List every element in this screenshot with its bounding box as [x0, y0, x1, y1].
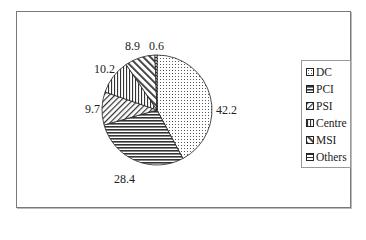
- label-psi: 9.7: [85, 103, 100, 115]
- legend-item-others: Others: [306, 151, 347, 163]
- horizontal-lines-swatch-icon: [306, 85, 314, 93]
- label-centre: 10.2: [94, 63, 115, 75]
- legend-item-msi: MSI: [306, 134, 336, 146]
- dots-swatch-icon: [306, 68, 314, 76]
- legend-item-pci: PCI: [306, 83, 334, 95]
- vertical-lines-swatch-icon: [306, 119, 314, 127]
- wide-diagonal-swatch-icon: [306, 136, 314, 144]
- label-msi: 8.9: [125, 40, 140, 52]
- label-others: 0.6: [149, 40, 164, 52]
- legend-item-centre: Centre: [306, 117, 347, 129]
- legend-item-dc: DC: [306, 66, 332, 78]
- legend: DC PCI PSI Centre MSI Others: [301, 60, 351, 168]
- diagonal-lines-swatch-icon: [306, 102, 314, 110]
- label-dc: 42.2: [216, 104, 237, 116]
- label-pci: 28.4: [114, 173, 135, 185]
- horizontal-bars-swatch-icon: [306, 153, 314, 161]
- legend-item-psi: PSI: [306, 100, 333, 112]
